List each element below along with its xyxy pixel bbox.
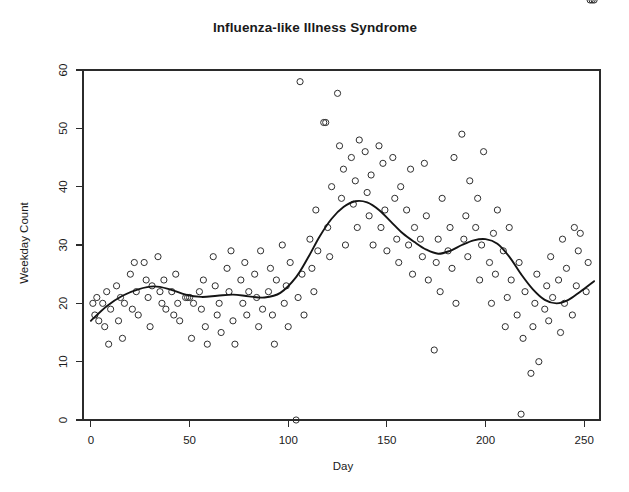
data-point bbox=[405, 242, 411, 248]
data-point bbox=[573, 283, 579, 289]
data-point bbox=[542, 306, 548, 312]
data-point bbox=[295, 294, 301, 300]
data-point bbox=[404, 207, 410, 213]
data-point bbox=[544, 283, 550, 289]
data-point bbox=[419, 254, 425, 260]
data-point bbox=[394, 236, 400, 242]
data-point bbox=[447, 224, 453, 230]
y-tick-label: 20 bbox=[57, 297, 69, 310]
data-point bbox=[384, 248, 390, 254]
data-point bbox=[127, 271, 133, 277]
data-point bbox=[147, 324, 153, 330]
data-point bbox=[557, 329, 563, 335]
data-point bbox=[244, 312, 250, 318]
data-point bbox=[480, 149, 486, 155]
data-point bbox=[569, 312, 575, 318]
x-tick-label: 150 bbox=[377, 434, 396, 446]
data-point bbox=[486, 259, 492, 265]
data-point bbox=[171, 312, 177, 318]
data-point bbox=[108, 306, 114, 312]
data-point bbox=[550, 294, 556, 300]
y-tick-label: 10 bbox=[57, 355, 69, 368]
data-point bbox=[338, 195, 344, 201]
data-point bbox=[435, 236, 441, 242]
data-point bbox=[329, 184, 335, 190]
y-tick-label: 60 bbox=[57, 64, 69, 77]
data-point bbox=[287, 259, 293, 265]
data-point bbox=[113, 283, 119, 289]
data-point bbox=[508, 277, 514, 283]
data-point bbox=[159, 300, 165, 306]
data-point bbox=[520, 335, 526, 341]
data-point bbox=[115, 318, 121, 324]
data-point bbox=[352, 178, 358, 184]
data-point bbox=[119, 335, 125, 341]
data-point bbox=[575, 248, 581, 254]
data-point bbox=[423, 213, 429, 219]
data-point bbox=[555, 277, 561, 283]
data-point bbox=[177, 318, 183, 324]
data-point bbox=[461, 236, 467, 242]
data-point bbox=[494, 207, 500, 213]
data-point bbox=[131, 259, 137, 265]
data-point bbox=[104, 289, 110, 295]
data-point bbox=[100, 300, 106, 306]
data-point bbox=[90, 300, 96, 306]
data-point bbox=[559, 236, 565, 242]
data-point bbox=[269, 312, 275, 318]
data-point bbox=[273, 277, 279, 283]
data-point bbox=[514, 312, 520, 318]
data-point bbox=[425, 277, 431, 283]
data-point bbox=[129, 306, 135, 312]
data-point bbox=[301, 312, 307, 318]
data-point bbox=[106, 341, 112, 347]
data-point bbox=[327, 254, 333, 260]
x-tick-label: 0 bbox=[88, 434, 94, 446]
data-point bbox=[228, 248, 234, 254]
data-point bbox=[548, 254, 554, 260]
x-axis-ticks: 050100150200250 bbox=[88, 420, 594, 446]
data-point bbox=[212, 283, 218, 289]
data-point bbox=[256, 324, 262, 330]
data-point bbox=[390, 154, 396, 160]
data-point bbox=[216, 300, 222, 306]
data-point bbox=[188, 335, 194, 341]
page-title: Influenza-like Illness Syndrome bbox=[213, 20, 418, 35]
data-point bbox=[536, 359, 542, 365]
data-point bbox=[315, 248, 321, 254]
data-point bbox=[196, 289, 202, 295]
data-point bbox=[311, 289, 317, 295]
data-point bbox=[528, 370, 534, 376]
data-point bbox=[155, 254, 161, 260]
data-point bbox=[411, 224, 417, 230]
data-point bbox=[370, 242, 376, 248]
data-point bbox=[145, 294, 151, 300]
data-point bbox=[433, 259, 439, 265]
data-point bbox=[577, 230, 583, 236]
data-point bbox=[479, 242, 485, 248]
data-point bbox=[340, 166, 346, 172]
data-point bbox=[516, 259, 522, 265]
data-point bbox=[258, 248, 264, 254]
chart-figure: Influenza-like Illness Syndrome 01020304… bbox=[0, 0, 629, 492]
data-point bbox=[380, 160, 386, 166]
data-point bbox=[585, 259, 591, 265]
x-tick-label: 100 bbox=[279, 434, 298, 446]
y-axis-label: Weekday Count bbox=[18, 201, 30, 283]
data-point bbox=[356, 137, 362, 143]
data-point bbox=[309, 265, 315, 271]
data-point bbox=[465, 254, 471, 260]
data-point bbox=[467, 178, 473, 184]
data-point bbox=[398, 184, 404, 190]
data-point bbox=[571, 224, 577, 230]
data-point bbox=[431, 347, 437, 353]
data-point bbox=[421, 160, 427, 166]
data-point bbox=[252, 271, 258, 277]
data-point bbox=[504, 294, 510, 300]
data-point bbox=[342, 242, 348, 248]
data-point bbox=[453, 300, 459, 306]
data-point bbox=[368, 172, 374, 178]
data-point bbox=[285, 324, 291, 330]
data-point bbox=[214, 312, 220, 318]
data-point bbox=[210, 254, 216, 260]
